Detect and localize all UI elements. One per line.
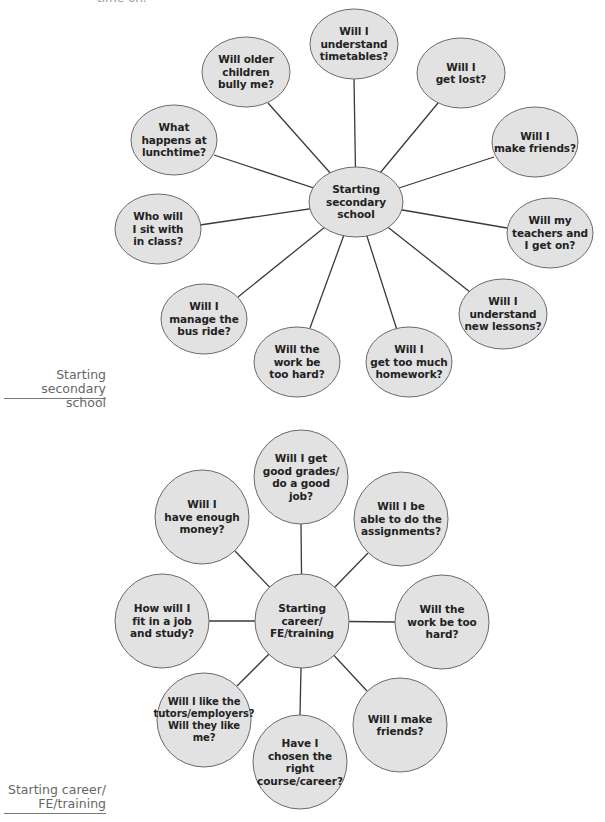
question-node: Will I understand timetables? [310,9,398,79]
question-label: What happens at lunchtime? [141,121,206,159]
question-node: Will I make friends? [353,678,447,772]
question-label: Will I be able to do the assignments? [360,500,441,538]
question-node: Who will I sit with in class? [115,194,201,264]
question-node: Will I get lost? [417,38,505,108]
question-label: Will I make friends? [494,130,576,155]
question-label: Will I understand new lessons? [464,295,541,333]
question-node: Will I manage the bus ride? [161,284,247,354]
question-node: Will older children bully me? [202,37,290,107]
question-node: Will I make friends? [492,107,578,177]
center-label: Starting secondary school [326,183,386,221]
center-label: Starting career/ FE/training [270,602,334,640]
question-node: Will I get too much homework? [366,327,452,397]
question-node: Will I be able to do the assignments? [354,472,448,566]
question-label: Will I manage the bus ride? [169,300,239,338]
question-label: Will I like the tutors/employers? Will t… [153,696,254,744]
question-label: Will I get lost? [436,61,487,86]
question-label: How will I fit in a job and study? [130,602,194,640]
center-node-secondary-school: Starting secondary school [307,167,405,237]
question-label: Will I get good grades/ do a good job? [263,452,339,502]
question-label: Will the work be too hard? [407,603,476,641]
question-label: Will I have enough money? [164,498,239,536]
question-node: Will the work be too hard? [254,327,340,397]
question-label: Will I get too much homework? [370,343,447,381]
question-label: Will I understand timetables? [320,25,388,63]
question-node: Have I chosen the right course/career? [253,715,347,809]
question-node: Will my teachers and I get on? [507,198,593,268]
question-label: Will I make friends? [368,713,432,738]
side-label-career: Starting career/ FE/training [0,783,106,811]
question-node: Will I have enough money? [155,470,249,564]
question-label: Will my teachers and I get on? [512,214,588,252]
question-label: Will the work be too hard? [269,343,325,381]
question-node: Will the work be too hard? [395,575,489,669]
question-label: Have I chosen the right course/career? [253,737,347,787]
side-label-divider [4,813,106,814]
question-node: What happens at lunchtime? [131,105,217,175]
question-node: Will I understand new lessons? [459,279,547,349]
question-node: How will I fit in a job and study? [115,574,209,668]
question-label: Will older children bully me? [218,53,274,91]
mind-map-page: time on. [0,0,605,822]
question-node: Will I get good grades/ do a good job? [254,430,348,524]
side-label-secondary-school: Starting secondary school [0,368,106,410]
question-label: Who will I sit with in class? [133,210,184,248]
side-label-divider [4,398,106,399]
center-node-career: Starting career/ FE/training [255,574,349,668]
question-node: Will I like the tutors/employers? Will t… [155,673,253,767]
